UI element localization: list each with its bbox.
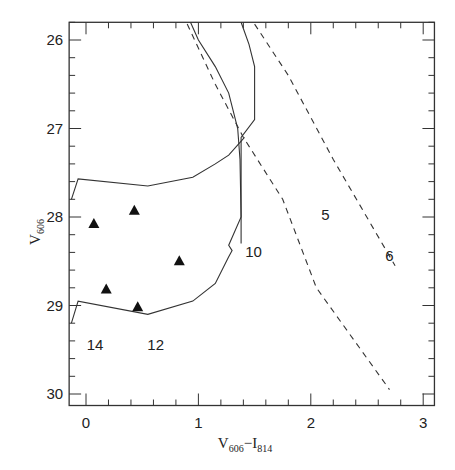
x-tick-label: 2 <box>307 414 315 431</box>
x-tick-label: 0 <box>82 414 90 431</box>
y-tick-label: 30 <box>46 385 63 402</box>
triangle-marker <box>101 284 112 294</box>
y-tick-label: 29 <box>46 297 63 314</box>
y-tick-label: 28 <box>46 208 63 225</box>
color-magnitude-chart: 01232627282930 56101412 V606 V606−I814 <box>0 0 455 470</box>
track-dashed-outer-line <box>255 24 396 266</box>
y-axis-label: V606 <box>27 219 46 245</box>
y-tick-label: 27 <box>46 120 63 137</box>
annotation-label: 14 <box>87 336 104 353</box>
data-markers <box>88 205 184 311</box>
x-axis-label: V606−I814 <box>218 435 272 454</box>
plot-border <box>69 22 434 405</box>
data-series <box>71 22 395 389</box>
selection-region-upper-line <box>71 137 244 199</box>
annotations: 56101412 <box>87 206 394 353</box>
x-tick-label: 3 <box>419 414 427 431</box>
annotation-label: 10 <box>245 243 262 260</box>
annotation-label: 6 <box>385 247 393 264</box>
annotation-label: 12 <box>147 336 164 353</box>
annotation-label: 5 <box>321 206 329 223</box>
y-tick-label: 26 <box>46 31 63 48</box>
triangle-marker <box>88 218 99 228</box>
plot-frame <box>69 22 434 405</box>
triangle-marker <box>132 301 143 311</box>
track-dashed-inner-line <box>187 24 389 390</box>
triangle-marker <box>174 255 185 265</box>
x-tick-label: 1 <box>194 414 202 431</box>
axis-ticks: 01232627282930 <box>46 22 434 430</box>
triangle-marker <box>129 205 140 215</box>
selection-region-line <box>71 22 254 323</box>
track-solid-line <box>191 22 242 243</box>
